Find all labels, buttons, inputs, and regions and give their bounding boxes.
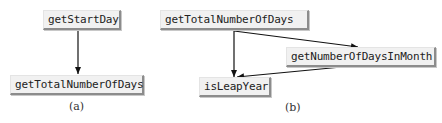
edge-gettotalnumberofdays-to-getnumberofdaysinmonth — [234, 31, 358, 47]
node-gettotalnumberofdays-b: getTotalNumberOfDays — [160, 10, 309, 30]
node-getnumberofdaysinmonth: getNumberOfDaysInMonth — [286, 47, 436, 67]
edge-getnumberofdaysinmonth-to-isleapyear — [237, 66, 352, 77]
node-getstartday: getStartDay — [43, 10, 121, 30]
node-isleapyear: isLeapYear — [199, 77, 271, 97]
caption-b: (b) — [285, 101, 301, 114]
node-gettotalnumberofdays-a: getTotalNumberOfDays — [10, 75, 144, 95]
caption-a: (a) — [69, 100, 84, 113]
